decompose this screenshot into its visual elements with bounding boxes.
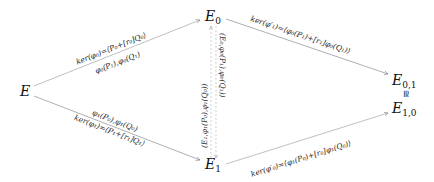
label-vertical-right: (E₀,φ₀(P₁),φ₀(Q₁)) <box>219 33 227 98</box>
isomorphism-symbol: ≅ <box>401 90 411 98</box>
node-e01-base: E <box>392 72 402 88</box>
node-e1-sub: 1 <box>215 164 221 174</box>
node-e10-sub: 1,0 <box>402 108 416 118</box>
node-e01-sub: 0,1 <box>402 80 416 90</box>
node-e1-base: E <box>205 156 215 172</box>
node-e0-base: E <box>205 8 215 24</box>
node-e: E <box>20 84 30 98</box>
node-e-label: E <box>20 83 30 99</box>
arrow-e-to-e0 <box>34 20 200 86</box>
node-e0-sub: 0 <box>215 16 221 26</box>
node-e10-base: E <box>392 100 402 116</box>
node-e01: E0,1 <box>392 73 417 90</box>
iso-symbol-text: ≅ <box>401 90 412 98</box>
arrow-e0-to-e01 <box>226 19 388 74</box>
diagram-arrows <box>0 0 434 182</box>
node-e1: E1 <box>205 157 221 174</box>
label-vertical-left: (E₁,φ₁(P₀),φ₁(Q₀)) <box>201 83 209 148</box>
node-e10: E1,0 <box>392 101 417 118</box>
node-e0: E0 <box>205 9 221 26</box>
